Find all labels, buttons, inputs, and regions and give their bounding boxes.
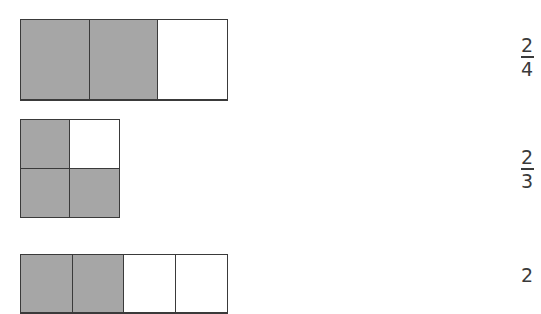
fraction-label-2: 2 3 [519,148,535,191]
shaded-cell [21,20,90,100]
empty-cell [70,120,119,169]
empty-cell [158,20,227,100]
empty-cell [176,255,228,313]
fraction-label-1: 2 4 [519,36,535,79]
denominator: 3 [521,172,533,191]
numerator: 2 [521,36,533,55]
empty-cell [124,255,176,313]
numerator: 2 [521,148,533,167]
fraction-figure-3 [20,254,228,314]
denominator: 4 [521,60,533,79]
fraction-figure-1 [20,19,228,101]
shaded-cell [73,255,125,313]
shaded-cell [21,169,70,218]
numerator: 2 [521,266,533,285]
fraction-label-3: 2 [519,266,535,285]
shaded-cell [21,255,73,313]
shaded-cell [70,169,119,218]
shaded-cell [90,20,159,100]
shaded-cell [21,120,70,169]
fraction-figure-2 [20,119,120,218]
